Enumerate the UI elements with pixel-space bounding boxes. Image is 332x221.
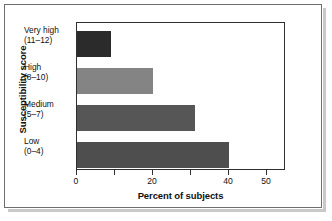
x-tick-0 (76, 170, 77, 175)
plot-area (76, 22, 285, 170)
x-tick-label-20: 20 (137, 176, 167, 186)
y-axis-tick-labels: Very high (11–12) High (8–10) Medium (5–… (24, 22, 74, 170)
y-tick-label-line2: (5–7) (24, 110, 74, 120)
x-axis-title: Percent of subjects (76, 190, 285, 201)
figure-drop-shadow-right (323, 8, 326, 212)
bar-high (77, 68, 153, 94)
x-tick-10 (114, 170, 115, 175)
x-tick-50 (266, 170, 267, 175)
y-tick-label-line2: (8–10) (24, 73, 74, 83)
y-tick-label-high: High (8–10) (24, 63, 74, 82)
x-tick-40 (228, 170, 229, 175)
figure-container: Susceptibility score Very high (11–12) H… (0, 0, 332, 221)
x-tick-20 (152, 170, 153, 175)
y-tick-label-very-high: Very high (11–12) (24, 26, 74, 45)
figure-drop-shadow-bottom (8, 209, 326, 212)
x-tick-label-0: 0 (61, 176, 91, 186)
bar-low (77, 142, 229, 168)
y-tick-label-medium: Medium (5–7) (24, 100, 74, 119)
y-tick-label-low: Low (0–4) (24, 137, 74, 156)
y-tick-label-line2: (11–12) (24, 36, 74, 46)
x-tick-label-40: 40 (213, 176, 243, 186)
bar-very-high (77, 31, 111, 57)
x-tick-label-50: 50 (251, 176, 281, 186)
x-tick-30 (190, 170, 191, 175)
y-tick-label-line2: (0–4) (24, 147, 74, 157)
bar-medium (77, 105, 195, 131)
